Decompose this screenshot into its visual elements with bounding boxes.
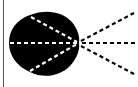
outer-ray-upper bbox=[81, 13, 134, 41]
outer-ray-lower bbox=[81, 46, 134, 74]
outer-rays bbox=[81, 13, 137, 74]
eye-rays-diagram bbox=[0, 0, 138, 87]
